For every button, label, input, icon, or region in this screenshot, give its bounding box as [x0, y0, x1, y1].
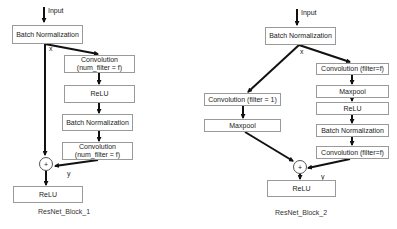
sum-node: +: [39, 157, 53, 171]
sum-node: +: [293, 160, 307, 174]
maxpool-box: Maxpool: [316, 85, 389, 98]
block-caption: ResNet_Block_2: [275, 209, 327, 216]
relu-box: ReLU: [13, 186, 83, 203]
x-label: x: [300, 48, 304, 55]
convolution-box: Convolution (filter=f): [316, 146, 389, 159]
convolution-box: Convolution (filter=f): [316, 63, 389, 75]
convolution-box: Convolution (filter = 1): [204, 93, 281, 106]
convolution-box: Convolution (num_filter = f): [64, 55, 135, 73]
batch-norm-box: Batch Normalization: [316, 124, 389, 137]
input-label: Input: [48, 7, 64, 14]
relu-box: ReLU: [64, 85, 135, 103]
relu-box: ReLU: [267, 180, 336, 197]
maxpool-box: Maxpool: [204, 119, 281, 132]
x-label: x: [49, 45, 53, 52]
y-label: y: [321, 173, 325, 180]
batch-norm-box: Batch Normalization: [265, 27, 336, 45]
input-label: Input: [301, 9, 317, 16]
block-caption: ResNet_Block_1: [38, 208, 90, 215]
batch-norm-box: Batch Normalization: [12, 25, 83, 44]
relu-box: ReLU: [316, 102, 389, 115]
convolution-box: Convolution (num_filter = f): [62, 142, 133, 160]
batch-norm-box: Batch Normalization: [62, 114, 133, 131]
y-label: y: [67, 170, 71, 177]
